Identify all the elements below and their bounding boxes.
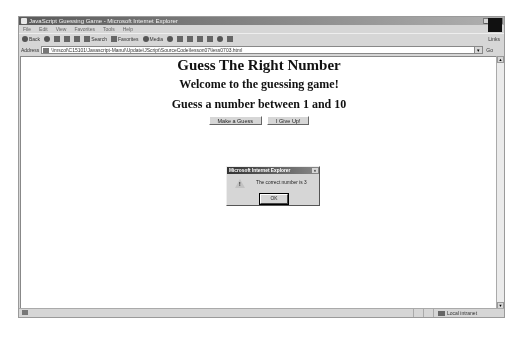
title-bar: JavaScript Guessing Game - Microsoft Int… (19, 17, 504, 25)
status-divider (413, 309, 414, 317)
ok-button[interactable]: OK (260, 194, 288, 204)
home-button[interactable] (74, 36, 80, 42)
button-row: Make a Guess I Give Up! (21, 116, 497, 125)
menu-tools[interactable]: Tools (103, 25, 115, 33)
dialog-title-bar: Microsoft Internet Explorer × (227, 167, 319, 174)
print-button[interactable] (187, 36, 193, 42)
dialog-title: Microsoft Internet Explorer (229, 168, 290, 173)
menu-help[interactable]: Help (123, 25, 133, 33)
mail-button[interactable] (177, 36, 183, 42)
status-bar: Local intranet (19, 308, 504, 317)
alert-dialog: Microsoft Internet Explorer × ! The corr… (226, 166, 320, 206)
search-button[interactable]: Search (84, 36, 107, 42)
dialog-close-button[interactable]: × (312, 168, 318, 173)
media-button[interactable]: Media (143, 36, 164, 42)
search-label: Search (91, 36, 107, 42)
address-bar: Address \\mscol\C15101\Javascript-Manul\… (19, 45, 504, 55)
media-label: Media (150, 36, 164, 42)
intranet-zone-icon (438, 311, 445, 316)
page-icon (43, 48, 49, 53)
history-icon (167, 36, 173, 42)
warning-exclamation-icon: ! (239, 181, 241, 187)
print-icon (187, 36, 193, 42)
dialog-message: The correct number is 3 (256, 180, 307, 185)
security-zone: Local intranet (433, 309, 498, 317)
address-input[interactable]: \\mscol\C15101\Javascript-Manul\Update\J… (41, 46, 483, 54)
search-icon (84, 36, 90, 42)
make-guess-button[interactable]: Make a Guess (209, 116, 262, 125)
discuss-button[interactable] (207, 36, 213, 42)
window-title: JavaScript Guessing Game - Microsoft Int… (29, 17, 178, 25)
address-url: \\mscol\C15101\Javascript-Manul\Update\J… (51, 47, 242, 53)
stop-icon (54, 36, 60, 42)
edit-button[interactable] (197, 36, 203, 42)
back-button[interactable]: Back (22, 36, 40, 42)
home-icon (74, 36, 80, 42)
favorites-label: Favorites (118, 36, 139, 42)
status-divider (423, 309, 424, 317)
edit-icon (197, 36, 203, 42)
vertical-scrollbar[interactable]: ▲ ▼ (496, 56, 504, 309)
research-button[interactable] (227, 36, 233, 42)
ie-app-icon (21, 18, 27, 24)
go-button[interactable]: Go (486, 47, 493, 53)
menu-file[interactable]: File (23, 25, 31, 33)
back-arrow-icon (22, 36, 28, 42)
forward-button[interactable] (44, 36, 50, 42)
menu-bar: File Edit View Favorites Tools Help (19, 25, 504, 33)
research-icon (227, 36, 233, 42)
zone-label: Local intranet (447, 310, 477, 316)
address-label: Address (21, 47, 39, 53)
menu-edit[interactable]: Edit (39, 25, 48, 33)
messenger-icon (217, 36, 223, 42)
refresh-icon (64, 36, 70, 42)
stop-button[interactable] (54, 36, 60, 42)
prompt-heading: Guess a number between 1 and 10 (21, 97, 497, 112)
back-label: Back (29, 36, 40, 42)
scroll-up-button[interactable]: ▲ (497, 56, 504, 63)
page-status-icon (22, 310, 28, 315)
messenger-button[interactable] (217, 36, 223, 42)
media-icon (143, 36, 149, 42)
give-up-button[interactable]: I Give Up! (267, 116, 309, 125)
welcome-heading: Welcome to the guessing game! (21, 77, 497, 92)
links-button[interactable]: Links (488, 36, 500, 42)
favorites-button[interactable]: Favorites (111, 36, 139, 42)
refresh-button[interactable] (64, 36, 70, 42)
windows-logo-icon (488, 18, 502, 32)
favorites-icon (111, 36, 117, 42)
toolbar: Back Search Favorites Media (19, 33, 504, 44)
address-dropdown-button[interactable]: ▾ (474, 47, 482, 53)
menu-view[interactable]: View (56, 25, 67, 33)
menu-favorites[interactable]: Favorites (74, 25, 95, 33)
mail-icon (177, 36, 183, 42)
page-title: Guess The Right Number (21, 57, 497, 74)
discuss-icon (207, 36, 213, 42)
history-button[interactable] (167, 36, 173, 42)
forward-arrow-icon (44, 36, 50, 42)
